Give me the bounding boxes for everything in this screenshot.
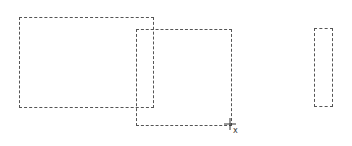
selection-rectangle-square[interactable]	[136, 29, 232, 126]
svg-text:x: x	[233, 126, 238, 135]
drawing-canvas[interactable]: x	[0, 0, 352, 146]
selection-rectangle-narrow[interactable]	[314, 28, 333, 107]
selection-rectangle-large[interactable]	[19, 17, 154, 108]
crosshair-cursor-icon: x	[224, 118, 240, 134]
